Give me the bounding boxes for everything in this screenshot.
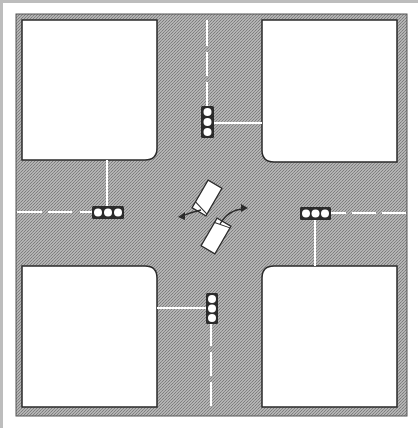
traffic-signal-south <box>206 293 218 324</box>
block-bottom-left <box>22 266 157 407</box>
block-top-left <box>22 20 157 160</box>
block-bottom-right <box>262 266 397 407</box>
intersection-diagram <box>0 0 418 428</box>
traffic-signal-north <box>201 106 214 138</box>
traffic-signal-east <box>300 207 331 220</box>
traffic-signal-west <box>92 206 124 219</box>
block-top-right <box>262 20 397 162</box>
